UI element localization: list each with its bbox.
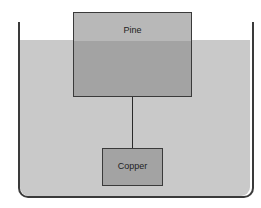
copper-label: Copper	[103, 161, 162, 171]
copper-block: Copper	[102, 148, 163, 186]
pine-block: Pine	[73, 12, 192, 97]
pine-label: Pine	[74, 25, 191, 35]
connecting-string	[132, 97, 133, 148]
